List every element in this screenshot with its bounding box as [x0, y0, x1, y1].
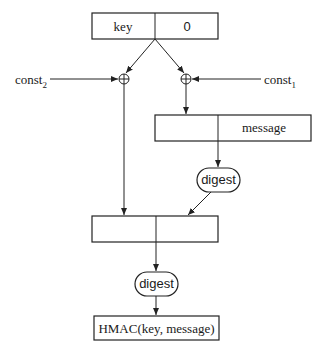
digest-inner-label: digest: [201, 172, 236, 187]
hmac-output-label: HMAC(key, message): [98, 321, 214, 336]
message-label: message: [242, 120, 286, 135]
hmac-output-box: HMAC(key, message): [94, 316, 219, 340]
zero-pad-label: 0: [183, 19, 190, 34]
digest-inner-node: digest: [197, 168, 240, 192]
combine-box: [92, 216, 218, 242]
key-label: key: [114, 19, 133, 34]
digest-outer-label: digest: [139, 276, 174, 291]
key-box: key 0: [92, 13, 218, 39]
hmac-diagram: key 0 const2 const1 message digest: [0, 0, 325, 357]
const2-label: const2: [15, 72, 47, 90]
arrow-key-to-xor-left: [126, 39, 155, 73]
const1-label: const1: [264, 72, 296, 90]
digest-outer-node: digest: [135, 272, 178, 296]
arrow-key-to-xor-right: [155, 39, 184, 73]
xor-left-icon: [119, 74, 129, 84]
message-box: message: [155, 115, 311, 141]
arrow-digest-to-combine: [188, 192, 211, 215]
xor-right-icon: [181, 74, 191, 84]
